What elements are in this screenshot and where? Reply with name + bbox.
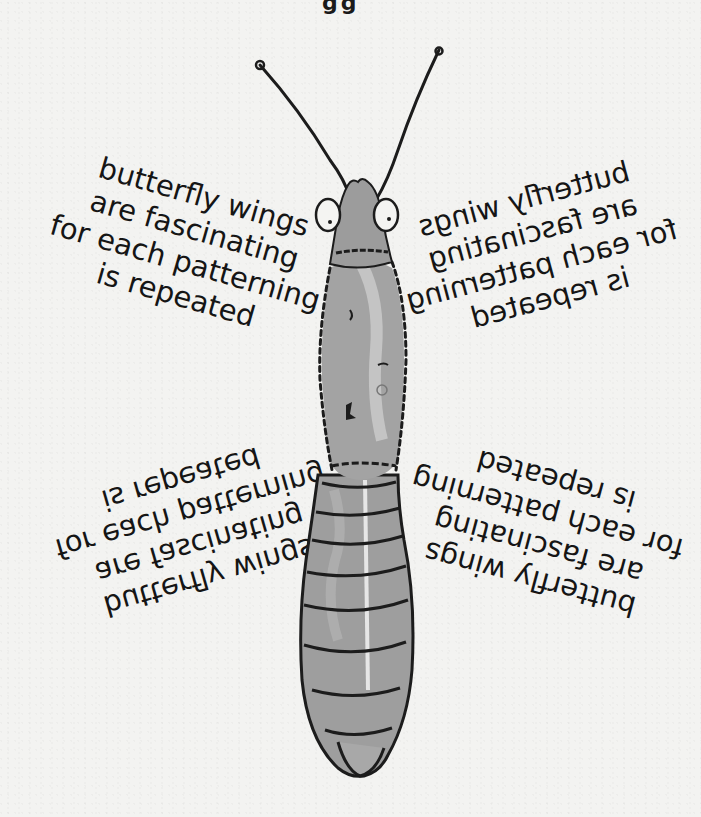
insect-illustration-icon [0,0,701,817]
book-page: gg butterfly wings are fascinating for e… [0,0,701,817]
antennae-icon [256,48,443,201]
right-eye-icon [374,199,398,231]
thorax-icon [320,257,406,480]
abdomen-icon [301,475,413,776]
head-icon [316,179,398,268]
left-eye-icon [316,199,340,231]
